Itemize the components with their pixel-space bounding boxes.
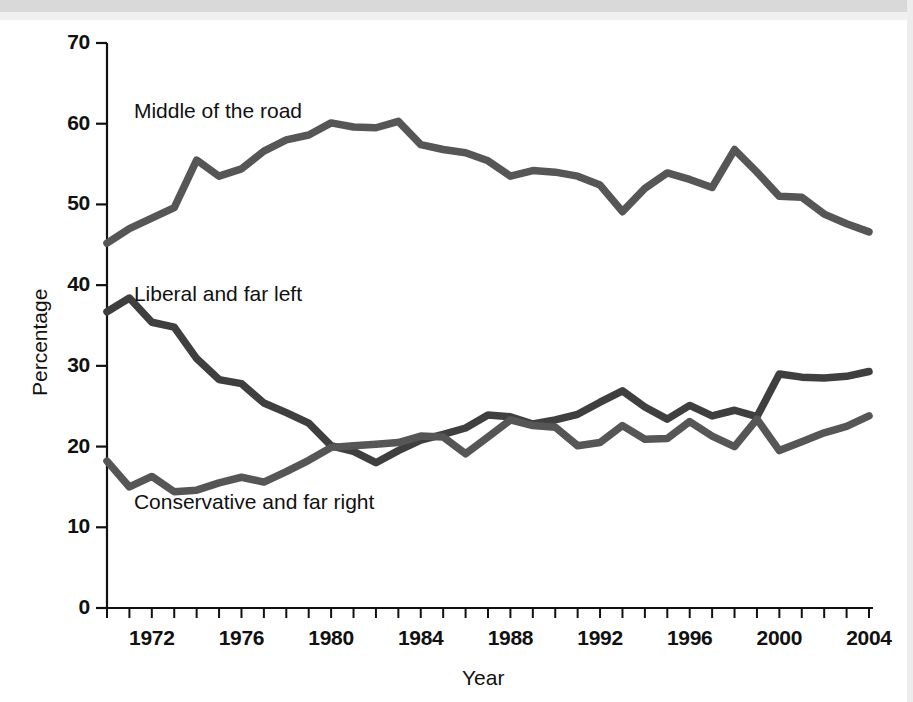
- axes: [96, 43, 873, 618]
- series-label: Middle of the road: [134, 99, 302, 123]
- y-axis-title: Percentage: [28, 288, 52, 395]
- x-tick-label: 1984: [376, 626, 466, 650]
- series-lines: [107, 121, 869, 491]
- y-tick-label: 50: [44, 191, 90, 215]
- y-tick-label: 70: [44, 30, 90, 54]
- x-tick-label: 1972: [107, 626, 197, 650]
- series-label: Liberal and far left: [134, 282, 302, 306]
- x-tick-label: 1976: [196, 626, 286, 650]
- chart-figure: 0102030405060701972197619801984198819921…: [0, 0, 913, 702]
- x-tick-label: 1980: [286, 626, 376, 650]
- y-tick-label: 60: [44, 111, 90, 135]
- series-line: [107, 416, 869, 492]
- y-tick-label: 10: [44, 514, 90, 538]
- x-tick-label: 2000: [734, 626, 824, 650]
- x-tick-label: 1996: [645, 626, 735, 650]
- y-tick-label: 0: [44, 595, 90, 619]
- y-tick-label: 20: [44, 434, 90, 458]
- x-tick-label: 1988: [465, 626, 555, 650]
- series-line: [107, 121, 869, 243]
- x-axis-title: Year: [462, 666, 504, 690]
- x-tick-label: 1992: [555, 626, 645, 650]
- series-label: Conservative and far right: [134, 490, 374, 514]
- x-tick-label: 2004: [824, 626, 913, 650]
